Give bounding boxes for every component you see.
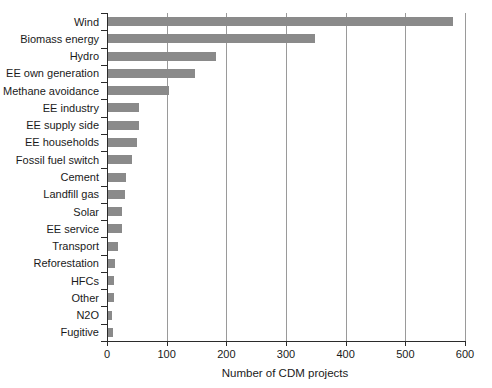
bar [107, 17, 453, 26]
bar [107, 190, 125, 199]
y-tick [101, 186, 107, 187]
y-tick [101, 30, 107, 31]
y-tick [101, 203, 107, 204]
gridline-100 [167, 13, 168, 341]
x-tick [465, 341, 466, 346]
x-tick [167, 341, 168, 346]
category-label: Landfill gas [0, 188, 99, 200]
y-axis-category-labels: WindBiomass energyHydroEE own generation… [0, 0, 99, 388]
category-label: Biomass energy [0, 33, 99, 45]
x-tick-label: 300 [266, 348, 306, 360]
y-tick [101, 289, 107, 290]
y-tick [101, 168, 107, 169]
x-tick-label: 400 [326, 348, 366, 360]
category-label: Other [0, 292, 99, 304]
x-axis-title-text: Number of CDM projects [222, 367, 349, 379]
bar [107, 173, 126, 182]
plot-area [107, 13, 465, 341]
y-tick [101, 237, 107, 238]
y-tick [101, 324, 107, 325]
bar [107, 242, 118, 251]
gridline-500 [405, 13, 406, 341]
category-label: HFCs [0, 275, 99, 287]
x-tick-label: 600 [445, 348, 485, 360]
x-tick [226, 341, 227, 346]
y-tick [101, 272, 107, 273]
category-label: EE households [0, 136, 99, 148]
category-label: EE industry [0, 102, 99, 114]
y-tick [101, 306, 107, 307]
category-label: Methane avoidance [0, 85, 99, 97]
x-tick [286, 341, 287, 346]
bar [107, 207, 122, 216]
y-tick [101, 255, 107, 256]
category-label: Transport [0, 240, 99, 252]
bar [107, 155, 132, 164]
gridline-300 [286, 13, 287, 341]
bar [107, 259, 115, 268]
gridline-400 [346, 13, 347, 341]
bar [107, 138, 137, 147]
bar [107, 293, 114, 302]
y-tick [101, 151, 107, 152]
gridline-600 [465, 13, 466, 341]
category-label: Cement [0, 171, 99, 183]
category-label: EE supply side [0, 119, 99, 131]
category-label: EE own generation [0, 67, 99, 79]
gridline-200 [226, 13, 227, 341]
category-label: Fugitive [0, 326, 99, 338]
category-label: Wind [0, 16, 99, 28]
x-axis-title: Number of CDM projects [0, 366, 492, 380]
bar [107, 103, 139, 112]
y-tick [101, 82, 107, 83]
y-axis-line [107, 13, 108, 341]
category-label: Hydro [0, 50, 99, 62]
bar [107, 52, 216, 61]
y-tick [101, 65, 107, 66]
cdm-projects-bar-chart: 0100200300400500600 WindBiomass energyHy… [0, 0, 492, 388]
category-label: Reforestation [0, 257, 99, 269]
x-tick [346, 341, 347, 346]
y-tick [101, 13, 107, 14]
y-tick [101, 220, 107, 221]
y-tick [101, 99, 107, 100]
category-label: EE service [0, 223, 99, 235]
category-label: N2O [0, 309, 99, 321]
x-tick [107, 341, 108, 346]
bar [107, 121, 139, 130]
y-tick [101, 48, 107, 49]
x-tick-label: 200 [206, 348, 246, 360]
bar [107, 69, 195, 78]
bar [107, 224, 122, 233]
category-label: Fossil fuel switch [0, 154, 99, 166]
bar [107, 86, 169, 95]
category-label: Solar [0, 206, 99, 218]
x-tick [405, 341, 406, 346]
y-tick [101, 117, 107, 118]
y-tick [101, 134, 107, 135]
bar [107, 34, 315, 43]
x-tick-label: 500 [385, 348, 425, 360]
x-tick-label: 100 [147, 348, 187, 360]
bar [107, 276, 114, 285]
